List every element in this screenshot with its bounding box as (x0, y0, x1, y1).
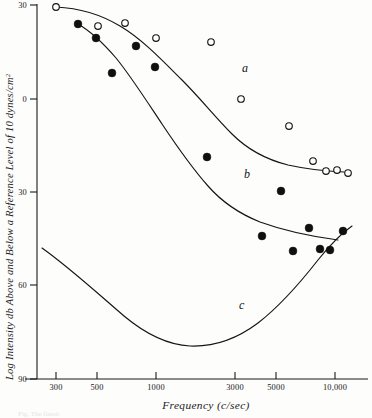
x-tick-label-4: 5000 (267, 383, 285, 392)
data-point-b-13 (339, 227, 347, 235)
x-axis-title: Frequency (c/sec) (161, 399, 249, 412)
chart-svg: 30 0 30 60 90 300 500 1000 3000 5000 10,… (0, 0, 372, 418)
data-point-b-10 (305, 224, 313, 232)
axis-group (25, 4, 368, 379)
y-tick-labels: 30 0 30 60 90 (18, 1, 27, 384)
data-point-b-1 (74, 20, 82, 28)
curve-b-path (78, 24, 338, 240)
y-axis-title-superscript: 2 (4, 73, 12, 77)
curve-label-b: b (244, 167, 250, 181)
x-tick-label-3: 3000 (226, 383, 244, 392)
y-axis-title-main: Log Intensity db Above and Below a Refer… (4, 77, 15, 381)
y-tick-label-1: 0 (23, 95, 27, 104)
data-point-a-9 (323, 168, 330, 175)
x-tick-label-5: 10,000 (323, 383, 347, 392)
figure-container: 30 0 30 60 90 300 500 1000 3000 5000 10,… (0, 0, 372, 418)
y-tick-label-4: 90 (18, 375, 27, 384)
data-point-b-5 (151, 63, 159, 71)
y-tick-label-2: 30 (18, 188, 27, 197)
x-tick-label-1: 500 (90, 383, 103, 392)
data-point-a-4 (153, 35, 160, 42)
x-tick-labels: 300 500 1000 3000 5000 10,000 (49, 383, 347, 392)
data-point-b-2 (92, 34, 100, 42)
data-point-a-3 (122, 20, 129, 27)
data-point-a-2 (95, 23, 102, 30)
data-point-a-5 (208, 39, 215, 46)
y-tick-label-0: 30 (18, 1, 27, 10)
y-tick-label-3: 60 (18, 281, 27, 290)
data-point-a-6 (238, 96, 245, 103)
figure-caption-partial: Fig. The fixed- (18, 410, 60, 418)
data-point-a-1 (53, 4, 60, 11)
curve-label-c: c (239, 298, 245, 312)
series-b-markers (74, 20, 347, 255)
data-point-a-11 (345, 170, 352, 177)
series-a-markers (53, 4, 352, 177)
data-point-b-9 (289, 247, 297, 255)
x-tick-label-0: 300 (49, 383, 62, 392)
data-point-b-4 (132, 42, 140, 50)
y-axis-title: Log Intensity db Above and Below a Refer… (4, 73, 16, 381)
data-point-b-3 (108, 69, 116, 77)
curve-label-a: a (242, 61, 248, 75)
y-axis-title-group: Log Intensity db Above and Below a Refer… (4, 73, 16, 381)
data-point-b-11 (316, 245, 324, 253)
data-point-a-10 (334, 167, 341, 174)
data-point-b-8 (277, 187, 285, 195)
curve-a-path (56, 7, 344, 172)
data-point-a-8 (310, 158, 317, 165)
data-point-b-6 (203, 153, 211, 161)
data-point-a-7 (286, 123, 293, 130)
data-point-b-7 (258, 232, 266, 240)
data-point-b-12 (326, 246, 334, 254)
curve-c-path (42, 226, 352, 346)
x-tick-label-2: 1000 (147, 383, 165, 392)
